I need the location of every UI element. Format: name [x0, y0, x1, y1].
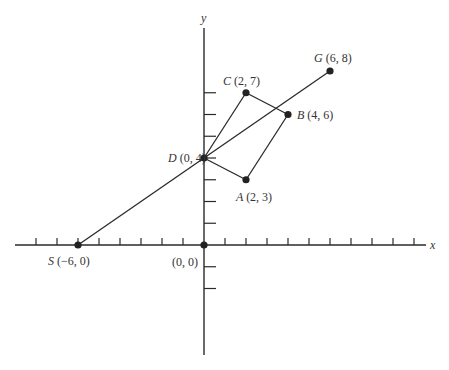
- point-O: [200, 241, 207, 248]
- origin-label: (0, 0): [172, 255, 198, 269]
- coordinate-diagram: xy(0, 0) S (−6, 0)D (0, 4)A (2, 3)B (4, …: [0, 0, 449, 370]
- point-A: [242, 176, 249, 183]
- point-label-G: G (6, 8): [314, 51, 352, 65]
- segment-CD: [204, 93, 246, 158]
- y-axis-label: y: [200, 11, 207, 25]
- point-label-A: A (2, 3): [235, 190, 272, 204]
- point-label-S: S (−6, 0): [48, 254, 90, 268]
- point-C: [242, 89, 249, 96]
- point-B: [284, 111, 291, 118]
- segment-DA: [204, 158, 246, 180]
- x-axis-label: x: [429, 238, 436, 252]
- point-label-D: D (0, 4): [167, 151, 206, 165]
- point-S: [74, 241, 81, 248]
- axes: xy(0, 0): [15, 11, 436, 355]
- point-G: [326, 67, 333, 74]
- point-label-B: B (4, 6): [297, 108, 333, 122]
- point-label-C: C (2, 7): [223, 74, 260, 88]
- labels: S (−6, 0)D (0, 4)A (2, 3)B (4, 6)C (2, 7…: [48, 51, 352, 268]
